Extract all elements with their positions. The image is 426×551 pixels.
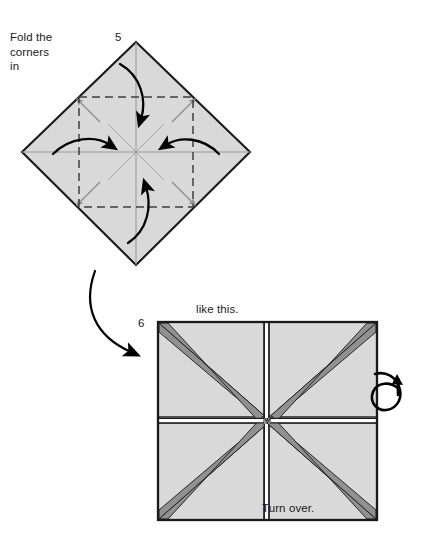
turn-over-caption: Turn over. <box>262 501 314 516</box>
step-number-6: 6 <box>138 317 145 329</box>
like-this-caption: like this. <box>196 302 239 317</box>
step5-diamond-group <box>22 42 250 265</box>
step6-square-group <box>158 322 377 520</box>
diagram-canvas <box>0 0 426 551</box>
origami-instruction-figure: Fold the corners in 5 6 like this. Turn … <box>0 0 426 551</box>
step-number-5: 5 <box>115 31 122 43</box>
transition-arrow <box>90 271 131 352</box>
fold-instruction-text: Fold the corners in <box>10 30 52 74</box>
